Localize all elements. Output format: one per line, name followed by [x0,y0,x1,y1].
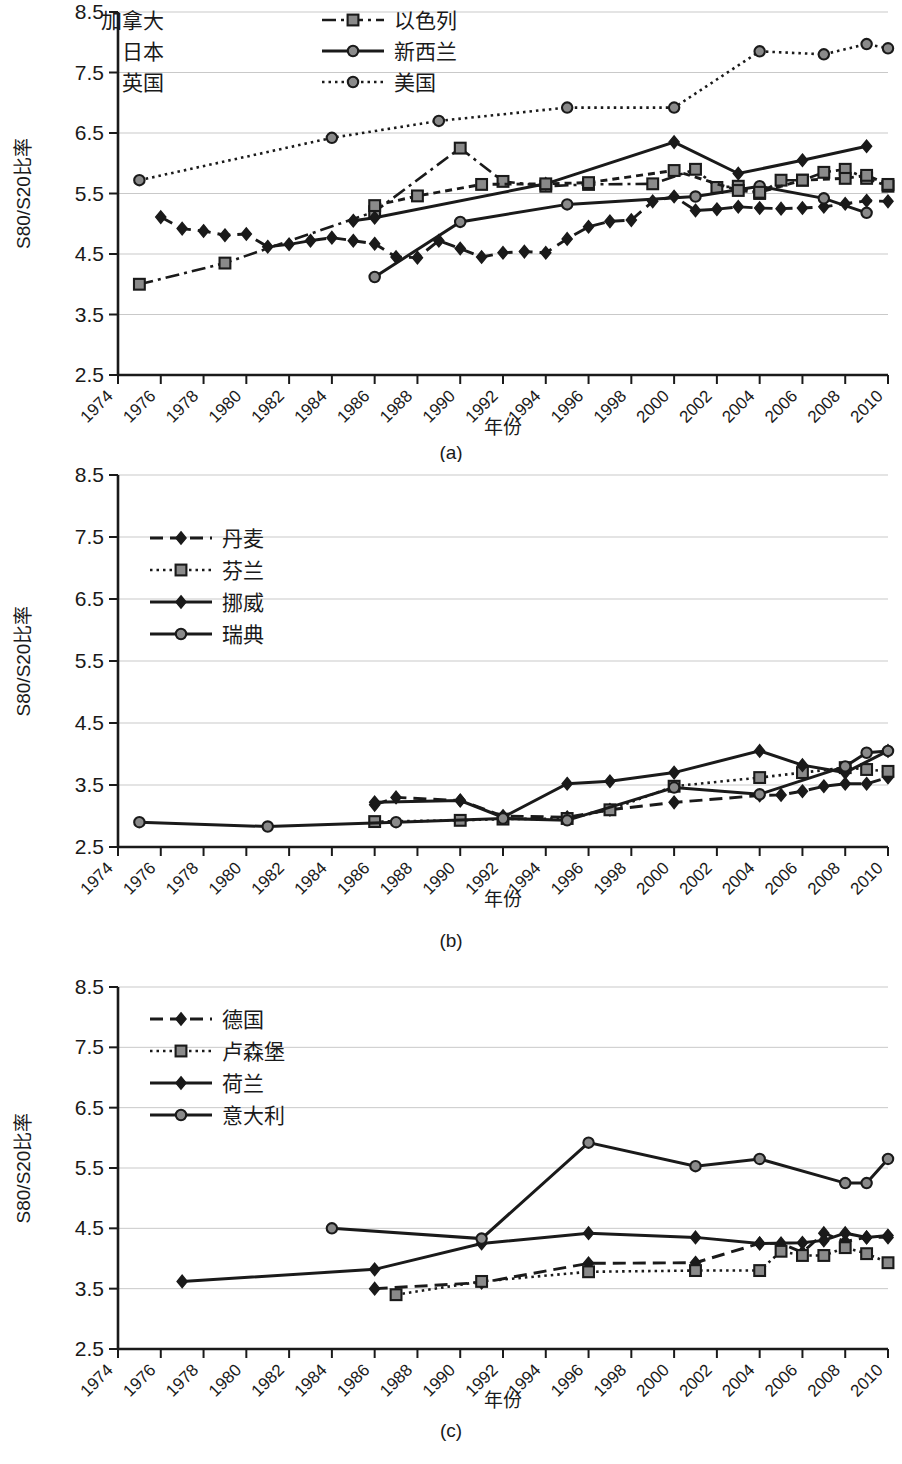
data-point-marker-square [883,179,894,190]
data-point-marker-diamond [220,229,230,241]
data-point-marker-square [455,143,466,154]
data-point-marker-square [818,1250,829,1261]
x-tick-label: 2002 [676,858,716,898]
data-point-marker-square [883,1257,894,1268]
y-tick-label: 2.5 [75,1337,104,1360]
chart-panel-a: 2.53.54.55.56.57.58.51974197619781980198… [0,0,902,462]
x-tick-label: 1998 [590,1360,630,1400]
legend-label: 丹麦 [222,527,264,550]
data-point-marker-circle [348,77,358,87]
y-tick-label: 7.5 [75,1035,104,1058]
data-point-marker-square [412,191,423,202]
data-point-marker-circle [369,272,379,282]
x-tick-label: 1976 [119,858,159,898]
x-tick-label: 1984 [291,386,331,426]
data-point-marker-square [797,1250,808,1261]
data-point-marker-circle [754,1154,764,1164]
x-tick-label: 1978 [162,858,202,898]
data-point-marker-diamond [348,215,358,227]
data-point-marker-diamond [583,221,593,233]
data-point-marker-square [391,1289,402,1300]
data-point-marker-diamond [883,195,893,207]
x-tick-label: 2004 [718,1360,758,1400]
data-point-marker-diamond [776,202,786,214]
data-point-marker-diamond [156,211,166,223]
gridlines [118,12,888,315]
legend-label: 意大利 [222,1104,285,1127]
data-point-marker-diamond [241,228,251,240]
data-point-marker-diamond [562,778,572,790]
data-point-marker-diamond [305,234,315,246]
x-tick-label: 2010 [847,858,887,898]
data-point-marker-circle [498,813,508,823]
data-point-marker-square [818,167,829,178]
data-point-marker-circle [861,208,871,218]
x-tick-label: 2008 [804,1360,844,1400]
data-point-marker-square [797,175,808,186]
x-tick-label: 2000 [633,1360,673,1400]
legend-label: 新西兰 [394,40,457,63]
x-tick-label: 1986 [333,858,373,898]
data-point-marker-circle [819,193,829,203]
data-point-marker-square [754,1265,765,1276]
x-axis-title: 年份 [484,1390,522,1411]
data-point-marker-circle [883,1154,893,1164]
data-point-marker-square [840,173,851,184]
x-tick-label: 1982 [248,858,288,898]
x-tick-label: 1986 [333,1360,373,1400]
y-tick-label: 2.5 [75,363,104,386]
data-point-marker-square [669,165,680,176]
series-芬兰 [369,762,893,827]
data-point-marker-diamond [755,202,765,214]
data-point-marker-circle [669,102,679,112]
x-tick-label: 2004 [718,386,758,426]
data-point-marker-circle [583,1137,593,1147]
data-point-marker-circle [861,1178,871,1188]
data-point-marker-diamond [797,785,807,797]
series-加拿大 [156,190,893,264]
y-tick-label: 2.5 [75,835,104,858]
data-point-marker-circle [391,817,401,827]
legend-label: 挪威 [222,591,264,614]
data-point-marker-circle [861,39,871,49]
x-tick-label: 2006 [761,858,801,898]
series-挪威 [370,745,894,824]
data-point-marker-circle [754,46,764,56]
data-point-marker-diamond [455,794,465,806]
data-point-marker-circle [819,49,829,59]
data-point-marker-diamond [733,201,743,213]
x-axis-title: 年份 [484,889,522,910]
data-point-marker-circle [883,43,893,53]
data-point-marker-circle [840,1178,850,1188]
legend-label: 荷兰 [222,1072,264,1095]
y-tick-label: 5.5 [75,182,104,205]
data-point-marker-diamond [198,225,208,237]
data-point-marker-square [690,1265,701,1276]
data-point-marker-diamond [370,1282,380,1294]
data-point-marker-circle [348,46,358,56]
x-tick-label: 1982 [248,386,288,426]
data-point-marker-square [733,185,744,196]
x-tick-label: 1974 [77,386,117,426]
data-point-marker-diamond [176,1077,186,1089]
data-point-marker-diamond [177,1275,187,1287]
y-tick-label: 5.5 [75,649,104,672]
x-tick-label: 2008 [804,386,844,426]
data-point-marker-diamond [455,242,465,254]
data-point-marker-diamond [176,596,186,608]
data-point-marker-circle [562,199,572,209]
data-point-marker-square [690,164,701,175]
data-point-marker-diamond [176,1013,186,1025]
panel-caption: (b) [439,930,462,951]
data-point-marker-square [583,1266,594,1277]
legend-label: 美国 [394,71,436,94]
x-tick-label: 1990 [419,1360,459,1400]
x-tick-label: 1974 [77,858,117,898]
data-point-marker-square [754,772,765,783]
data-point-marker-diamond [862,1231,872,1243]
data-point-marker-diamond [176,532,186,544]
data-point-marker-diamond [690,204,700,216]
legend: 加拿大以色列日本新西兰英国美国 [101,9,457,94]
data-point-marker-square [861,764,872,775]
data-point-marker-diamond [327,231,337,243]
